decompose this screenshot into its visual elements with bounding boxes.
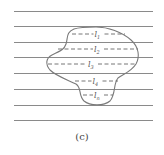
chord-label: l1	[95, 30, 101, 40]
chord-labels: l1l2l3l4ln	[88, 30, 100, 101]
chord-label: l2	[94, 45, 100, 55]
chord-label: ln	[94, 91, 100, 101]
chord-label: l4	[93, 77, 99, 87]
figure-caption: (c)	[0, 131, 164, 142]
chord-label: l3	[88, 60, 94, 70]
